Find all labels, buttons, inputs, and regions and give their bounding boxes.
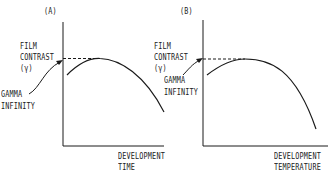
panel-a-x-label-line-1: DEVELOPMENT <box>118 152 165 162</box>
panel-a-y-label-line-2: CONTRAST <box>20 53 54 63</box>
panel-b-label: (B) <box>180 7 193 17</box>
panel-b-y-label-line-2: CONTRAST <box>154 53 188 63</box>
panel-a-graph <box>29 22 164 146</box>
panel-a-gamma-infinity-arrow <box>29 62 60 94</box>
panel-a-y-label-line-3: (γ) <box>20 64 33 74</box>
panel-b-annotation-line-1: GAMMA <box>164 76 185 86</box>
panel-a-y-label-line-1: FILM <box>20 42 37 52</box>
panel-a-annotation-line-2: INFINITY <box>1 102 35 112</box>
panel-a-label: (A) <box>44 7 57 17</box>
panel-b-annotation-line-2: INFINITY <box>164 88 198 98</box>
panel-a-contrast-curve <box>67 58 164 112</box>
panel-a-x-label-line-2: TIME <box>118 163 135 173</box>
panel-b-x-label-line-2: TEMPERATURE <box>274 163 321 173</box>
panel-b-y-label-line-3: (γ) <box>154 64 167 74</box>
panel-b-x-label-line-1: DEVELOPMENT <box>274 152 321 162</box>
panel-b-graph <box>183 20 328 146</box>
panel-b-contrast-curve <box>207 59 316 129</box>
panel-b-y-label-line-1: FILM <box>154 42 171 52</box>
panel-a-annotation-line-1: GAMMA <box>1 90 22 100</box>
